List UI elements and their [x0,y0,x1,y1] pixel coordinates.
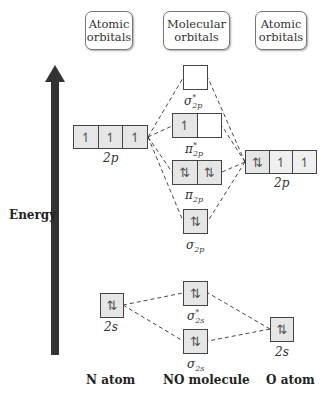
orbital-cell: ↿ [293,151,316,173]
orbital-cell: ↿ [270,151,294,173]
orbital-cell: ⇅ [184,330,207,353]
orbital-n-2p: ↿ ↿ ↿ [73,125,148,149]
orbital-pi-2p: ⇅ ⇅ [172,160,222,185]
orbital-cell [184,66,207,89]
orbital-pi-star-2p: ↿ [172,113,222,138]
orbital-sigma-star-2s: ⇅ [183,281,208,306]
orbital-cell: ⇅ [198,161,222,184]
label-sigma-star-2p: σ*2p [184,93,202,110]
orbital-cell: ⇅ [184,210,207,233]
orbital-cell [198,114,222,137]
footer-no-molecule: NO molecule [163,373,250,387]
orbital-cell: ⇅ [173,161,198,184]
orbital-sigma-2s: ⇅ [183,329,208,354]
orbital-cell: ↿ [173,114,198,137]
orbital-cell: ⇅ [184,282,207,305]
orbital-cell: ↿ [123,126,147,148]
orbital-o-2s: ⇅ [270,317,294,342]
orbital-cell: ⇅ [246,151,270,173]
footer-n-atom: N atom [86,373,135,387]
orbital-o-2p: ⇅ ↿ ↿ [245,150,317,174]
label-sigma-2s: σ2s [187,357,204,373]
energy-axis-label: Energy [9,208,56,222]
orbital-cell: ↿ [99,126,124,148]
orbital-sigma-star-2p [183,65,208,90]
label-n-2s: 2s [104,320,118,334]
orbital-cell: ⇅ [271,318,293,341]
label-sigma-star-2s: σ*2s [187,308,204,325]
orbital-cell: ⇅ [101,294,123,317]
label-pi-star-2p: π*2p [185,141,203,158]
orbital-sigma-2p: ⇅ [183,209,208,234]
orbital-cell: ↿ [74,126,99,148]
orbital-n-2s: ⇅ [100,293,124,318]
label-o-2s: 2s [275,345,289,359]
label-o-2p: 2p [274,176,289,190]
footer-o-atom: O atom [266,373,315,387]
label-n-2p: 2p [103,151,118,165]
label-sigma-2p: σ2p [186,238,204,254]
label-pi-2p: π2p [185,188,203,204]
